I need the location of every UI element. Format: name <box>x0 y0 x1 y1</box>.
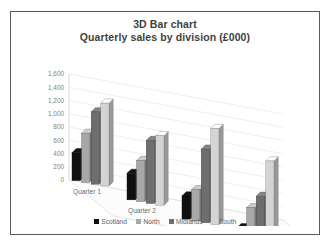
bar[interactable] <box>101 99 113 186</box>
chart-legend: ScotlandNorthMidlandsSouth <box>11 218 319 225</box>
bar-group <box>72 99 113 186</box>
y-axis-tick-label: 400 <box>53 150 64 157</box>
bar-group <box>127 131 168 205</box>
legend-label: South <box>219 218 236 225</box>
y-axis-tick-label: 1,600 <box>48 70 64 77</box>
y-axis-tick-label: 1,000 <box>48 110 64 117</box>
y-axis-tick-label: 1,200 <box>48 97 64 104</box>
bar[interactable] <box>266 157 278 226</box>
legend-swatch-icon <box>169 219 174 224</box>
bar[interactable] <box>156 131 168 205</box>
y-axis-tick-label: 0 <box>60 176 64 183</box>
legend-label: Scotland <box>101 218 127 225</box>
bar[interactable] <box>211 124 223 224</box>
plot-svg: 1,6001,4001,2001,0008006004002000Quarter… <box>23 56 309 226</box>
legend-item[interactable]: Scotland <box>94 218 127 225</box>
legend-item[interactable]: North <box>136 218 160 225</box>
y-axis-tick-label: 200 <box>53 163 64 170</box>
x-axis-tick-label: Quarter 2 <box>128 207 156 215</box>
chart-title: 3D Bar chart <box>11 18 319 31</box>
bar-group <box>182 124 223 224</box>
chart-subtitle: Quarterly sales by division (£000) <box>11 31 319 44</box>
legend-label: Midlands <box>176 218 202 225</box>
y-axis-tick-label: 1,400 <box>48 84 64 91</box>
x-axis-tick-label: Quarter 1 <box>73 188 101 196</box>
legend-item[interactable]: South <box>211 218 236 225</box>
legend-swatch-icon <box>136 219 141 224</box>
bar-chart: 3D Bar chart Quarterly sales by division… <box>11 12 319 234</box>
legend-swatch-icon <box>94 219 99 224</box>
legend-label: North <box>143 218 159 225</box>
y-axis-tick-label: 600 <box>53 137 64 144</box>
chart-title-block: 3D Bar chart Quarterly sales by division… <box>11 18 319 44</box>
plot-area: 1,6001,4001,2001,0008006004002000Quarter… <box>23 56 309 226</box>
legend-item[interactable]: Midlands <box>169 218 203 225</box>
chart-frame: 3D Bar chart Quarterly sales by division… <box>10 11 320 235</box>
legend-swatch-icon <box>211 219 216 224</box>
y-axis-tick-label: 800 <box>53 123 64 130</box>
